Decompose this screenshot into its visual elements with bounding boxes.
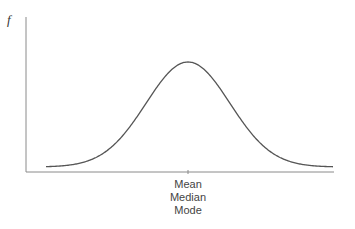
x-axis-labels: Mean Median Mode — [148, 178, 228, 217]
bell-curve — [46, 62, 333, 167]
y-axis-label: f — [7, 12, 11, 28]
median-label: Median — [148, 191, 228, 204]
mode-label: Mode — [148, 204, 228, 217]
mean-label: Mean — [148, 178, 228, 191]
